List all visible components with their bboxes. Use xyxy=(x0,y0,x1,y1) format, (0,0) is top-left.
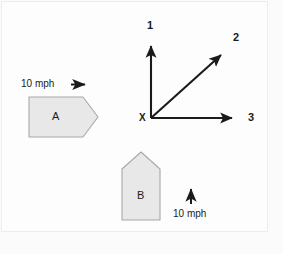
shape-a xyxy=(29,97,98,137)
axis-label-2: 2 xyxy=(233,32,239,43)
shape-a-label: A xyxy=(52,111,59,122)
figure-panel: 1 2 3 X A B 10 mph 10 mph xyxy=(0,0,283,254)
axis-label-1: 1 xyxy=(147,20,153,31)
speed-label-b: 10 mph xyxy=(173,209,206,219)
shape-b-label: B xyxy=(137,190,144,201)
shape-a-outline xyxy=(29,97,98,137)
speed-label-a: 10 mph xyxy=(21,79,54,89)
origin-label-x: X xyxy=(139,113,146,123)
diagram-canvas xyxy=(0,0,283,254)
axis-label-3: 3 xyxy=(248,112,254,123)
